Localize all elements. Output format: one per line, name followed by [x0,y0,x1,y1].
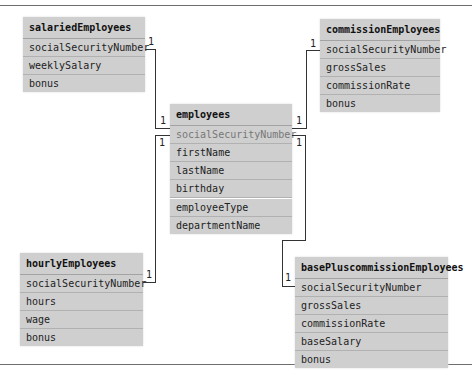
field: bonus [20,329,143,346]
field: employeeType [170,198,292,217]
table-title: salariedEmployees [23,17,145,39]
top-rule [0,5,472,6]
field: commissionRate [320,77,440,95]
relationship-line [155,135,156,283]
table-commission-employees: commissionEmployees socialSecurityNumber… [320,19,440,112]
relationship-line [143,282,156,283]
multiplicity-label: 1 [159,137,165,148]
field: grossSales [295,297,448,315]
relationship-line [305,135,306,241]
field: grossSales [320,59,440,77]
multiplicity-label: 1 [146,269,152,280]
field: bonus [320,95,440,112]
field: birthday [170,180,292,198]
relationship-line [282,240,283,287]
field: socialSecurityNumber [20,275,143,293]
primary-key-field: socialSecurityNumber [170,126,292,144]
relationship-line [155,135,170,136]
relationship-line [282,286,295,287]
relationship-line [155,128,170,129]
relationship-line [306,50,307,129]
field: hours [20,293,143,311]
relationship-line [282,240,306,241]
relationship-line [155,49,156,129]
multiplicity-label: 1 [310,38,316,49]
field: weeklySalary [23,57,145,75]
table-employees: employees socialSecurityNumber firstName… [170,104,292,234]
table-base-plus-commission-employees: basePluscommissionEmployees socialSecuri… [295,257,448,368]
multiplicity-label: 1 [148,36,154,47]
table-title: employees [170,104,292,126]
table-salaried-employees: salariedEmployees socialSecurityNumber w… [23,17,145,92]
relationship-line [292,135,306,136]
multiplicity-label: 1 [160,115,166,126]
field: socialSecurityNumber [23,39,145,57]
multiplicity-label: 1 [296,137,302,148]
table-title: basePluscommissionEmployees [295,257,448,279]
field: firstName [170,144,292,162]
relationship-line [306,50,320,51]
field: commissionRate [295,315,448,333]
field: lastName [170,162,292,180]
field: wage [20,311,143,329]
field: bonus [295,351,448,368]
table-title: hourlyEmployees [20,253,143,275]
table-hourly-employees: hourlyEmployees socialSecurityNumber hou… [20,253,143,346]
relationship-line [292,128,307,129]
field: socialSecurityNumber [295,279,448,297]
multiplicity-label: 1 [296,115,302,126]
field: baseSalary [295,333,448,351]
field: socialSecurityNumber [320,41,440,59]
table-title: commissionEmployees [320,19,440,41]
multiplicity-label: 1 [285,272,291,283]
field: bonus [23,75,145,92]
field: departmentName [170,217,292,234]
